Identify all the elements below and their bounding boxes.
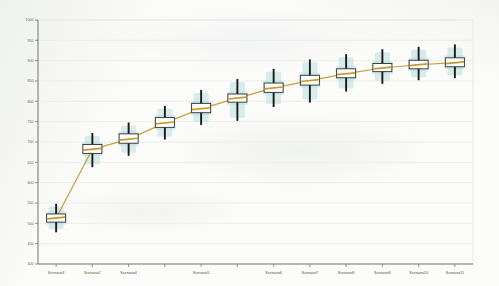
y-tick-label: 500 bbox=[28, 222, 34, 226]
gridlines bbox=[38, 20, 473, 244]
y-tick-label: 1000 bbox=[26, 18, 34, 22]
x-tick-label: Scenario11 bbox=[446, 271, 464, 275]
y-tick-label: 750 bbox=[28, 120, 34, 124]
chart-canvas: 4004505005506006507007508008509009501000… bbox=[0, 0, 499, 286]
x-tick-label: Scenario9 bbox=[374, 271, 391, 275]
x-tick-label: Scenario3 bbox=[48, 271, 65, 275]
x-tick-label: Scenario2 bbox=[84, 271, 101, 275]
y-tick-label: 700 bbox=[28, 140, 34, 144]
x-tick-label: Scenario5 bbox=[193, 271, 210, 275]
y-tick-label: 650 bbox=[28, 161, 34, 165]
x-tick-label: Scenario10 bbox=[409, 271, 428, 275]
y-tick-label: 450 bbox=[28, 242, 34, 246]
density-bands bbox=[46, 47, 466, 229]
y-tick-label: 900 bbox=[28, 59, 34, 63]
y-tick-label: 600 bbox=[28, 181, 34, 185]
boxplot-chart: 4004505005506006507007508008509009501000… bbox=[0, 0, 499, 286]
x-axis bbox=[38, 264, 473, 267]
y-axis bbox=[35, 20, 38, 264]
y-tick-label: 850 bbox=[28, 79, 34, 83]
y-tick-labels: 4004505005506006507007508008509009501000 bbox=[26, 18, 34, 266]
x-tick-label: Scenario6 bbox=[265, 271, 282, 275]
x-tick-label: Scenario7 bbox=[302, 271, 319, 275]
box-glyphs bbox=[47, 44, 465, 232]
x-tick-label: Scenario4 bbox=[120, 271, 137, 275]
y-tick-label: 550 bbox=[28, 201, 34, 205]
median-trend-line bbox=[56, 63, 455, 218]
x-tick-label: Scenario8 bbox=[338, 271, 355, 275]
y-tick-label: 400 bbox=[28, 262, 34, 266]
x-tick-labels: Scenario3Scenario2Scenario4Scenario5Scen… bbox=[48, 271, 464, 275]
y-tick-label: 800 bbox=[28, 100, 34, 104]
y-tick-label: 950 bbox=[28, 39, 34, 43]
